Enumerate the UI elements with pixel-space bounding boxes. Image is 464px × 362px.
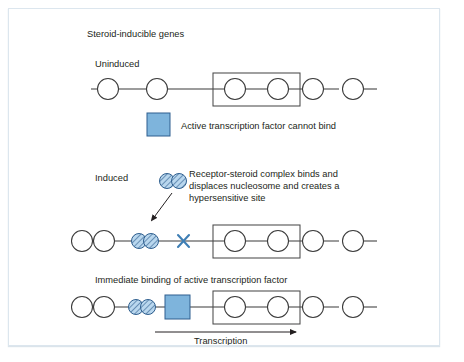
chromatin-row-factor-bound [71, 291, 377, 324]
nucleosome [94, 297, 115, 318]
nucleosome [225, 297, 246, 318]
nucleosome [343, 79, 364, 100]
transcription-label: Transcription [194, 336, 247, 345]
nucleosome [225, 231, 246, 252]
nucleosome [147, 79, 168, 100]
nucleosome [268, 79, 289, 100]
chromatin-row-uninduced [91, 73, 377, 106]
nucleosome [268, 231, 289, 252]
nucleosome [94, 231, 115, 252]
steroid-inducible-genes-diagram: Steroid-inducible genes Uninduced Active… [9, 9, 439, 345]
nucleosome [72, 231, 93, 252]
figure-frame: Steroid-inducible genes Uninduced Active… [8, 8, 440, 346]
nucleosome [98, 79, 119, 100]
legend-uninduced: Active transcription factor cannot bind [147, 113, 336, 136]
annotation-leader-line [152, 193, 172, 220]
annotation-line-3: hypersensitive site [189, 193, 265, 203]
panel-label-factor-bound: Immediate binding of active transcriptio… [95, 275, 287, 285]
annotation-line-2: displaces nucleosome and creates a [189, 181, 340, 191]
nucleosome [268, 297, 289, 318]
nucleosome [303, 231, 324, 252]
receptor-steroid-complex-icon [160, 174, 187, 189]
nucleosome [303, 297, 324, 318]
transcription-factor-swatch [147, 113, 170, 136]
transcription-direction: Transcription [155, 332, 296, 345]
panel-label-uninduced: Uninduced [95, 59, 139, 69]
receptor-steroid-complex [141, 300, 156, 315]
figure-title: Steroid-inducible genes [87, 29, 185, 39]
bound-transcription-factor [165, 295, 190, 319]
nucleosome [343, 297, 364, 318]
legend-label: Active transcription factor cannot bind [181, 121, 336, 131]
panel-label-induced: Induced [95, 173, 128, 183]
nucleosome [225, 79, 246, 100]
nucleosome [343, 231, 364, 252]
nucleosome [303, 79, 324, 100]
chromatin-row-induced [71, 225, 377, 258]
nucleosome [72, 297, 93, 318]
receptor-steroid-complex [144, 234, 159, 249]
annotation-line-1: Receptor-steroid complex binds and [189, 169, 338, 179]
